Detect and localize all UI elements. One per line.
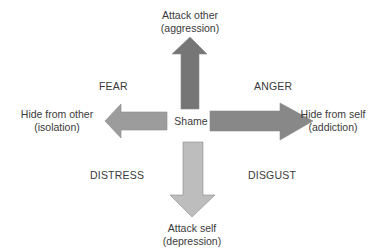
label-attack-other: Attack other (aggression) bbox=[145, 9, 235, 35]
label-hide-from-other: Hide from other (isolation) bbox=[12, 108, 102, 134]
label-hide-from-self-line2: (addiction) bbox=[288, 121, 378, 134]
center-label-shame: Shame bbox=[165, 115, 217, 128]
arrow-left-hide-from-other bbox=[105, 104, 167, 138]
label-hide-from-other-line1: Hide from other bbox=[12, 108, 102, 121]
emotion-fear: FEAR bbox=[99, 80, 128, 92]
label-hide-from-self: Hide from self (addiction) bbox=[288, 108, 378, 134]
label-attack-other-line2: (aggression) bbox=[145, 22, 235, 35]
label-attack-self: Attack self (depression) bbox=[147, 222, 237, 248]
label-attack-self-line1: Attack self bbox=[147, 222, 237, 235]
label-hide-from-other-line2: (isolation) bbox=[12, 121, 102, 134]
label-hide-from-self-line1: Hide from self bbox=[288, 108, 378, 121]
arrow-up-attack-other bbox=[172, 37, 207, 109]
label-attack-self-line2: (depression) bbox=[147, 235, 237, 248]
emotion-disgust: DISGUST bbox=[248, 169, 296, 181]
emotion-anger: ANGER bbox=[254, 80, 292, 92]
arrow-down-attack-self bbox=[170, 142, 215, 217]
emotion-distress: DISTRESS bbox=[90, 169, 144, 181]
label-attack-other-line1: Attack other bbox=[145, 9, 235, 22]
